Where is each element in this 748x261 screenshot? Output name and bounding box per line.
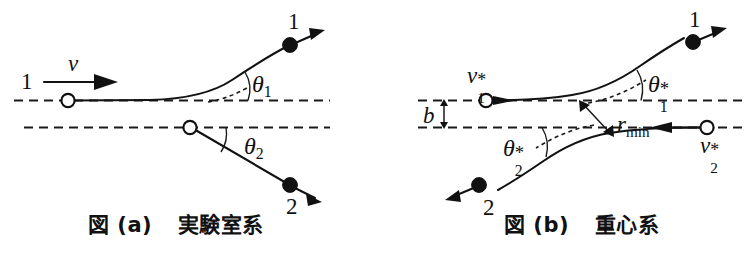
panel-b-velocity-2-superscript: * [710, 142, 719, 160]
panel-b-velocity-2-label: v*2 [700, 134, 724, 157]
panel-a-angle-1-label: θ1 [252, 72, 272, 100]
panel-a-angle-2-subscript: 2 [256, 145, 264, 162]
panel-a-outgoing-particle-1-label: 1 [288, 10, 300, 33]
panel-b-rmin-label: rmin [617, 113, 650, 139]
panel-a-angle-2-symbol: θ [244, 133, 256, 159]
panel-a-particle-1-arrow-head [309, 28, 325, 40]
panel-a-caption: 図 (a) 実験室系 [88, 215, 264, 236]
panel-a-velocity-label: v [68, 52, 78, 75]
panel-a-angle-1-subscript: 1 [264, 83, 272, 100]
panel-a-particle-2-arrow-head [306, 194, 322, 206]
panel-b-graphics [418, 26, 742, 202]
panel-b-outgoing-particle-2-label: 2 [483, 196, 495, 219]
panel-b-velocity-1-label: v*1 [467, 64, 491, 87]
panel-b-particle-1-dot [686, 35, 701, 50]
panel-b-impact-parameter-label: b [423, 104, 435, 127]
panel-b-angle-1-subscript: 1 [660, 99, 668, 115]
panel-a-open-circle-incoming [61, 94, 74, 107]
panel-a-angle-2-label: θ2 [244, 134, 264, 162]
panel-b-velocity-1-superscript: * [477, 72, 486, 90]
panel-b-particle-2-dot [472, 178, 487, 193]
panel-b-angle-1-superscript: * [660, 80, 669, 99]
panel-b-angle-1-symbol: θ [648, 71, 660, 97]
panel-b-caption: 図 (b) 重心系 [504, 215, 659, 236]
panel-b-trajectory-1-direction-arrow [493, 96, 515, 105]
panel-a-outgoing-particle-2-label: 2 [286, 195, 298, 218]
panel-b-caption-label: 図 (b) [504, 213, 569, 237]
panel-a-angle-1-symbol: θ [252, 71, 264, 97]
panel-a-incoming-particle-label: 1 [21, 70, 33, 93]
panel-a-caption-label: 図 (a) [88, 213, 152, 237]
panel-a-particle-2-dot [283, 178, 298, 193]
panel-a-open-circle-target [183, 121, 196, 134]
panel-b-particle-2-arrow-head [445, 190, 461, 202]
panel-b-angle-2-label: θ*2 [503, 136, 528, 160]
panel-a-graphics [14, 28, 330, 206]
panel-b-angle-2-superscript: * [515, 144, 524, 163]
panel-b-outgoing-particle-1-label: 1 [689, 8, 701, 31]
panel-a-velocity-arrow-head [94, 74, 118, 90]
panel-a-particle-1-dot [283, 38, 298, 53]
panel-b-velocity-2-subscript: 2 [710, 160, 718, 175]
panel-b-caption-text: 重心系 [595, 213, 660, 237]
panel-b-rmin-shaft [583, 104, 610, 133]
panel-b-particle-1-arrow-head [711, 26, 727, 38]
panel-a-caption-text: 実験室系 [178, 213, 264, 237]
panel-b-trajectory-2-direction-arrow [650, 122, 672, 133]
panel-b-velocity-2-symbol: v [700, 133, 710, 158]
scattering-figure: 1 v θ1 θ2 1 2 図 (a) 実験室系 v*1 v*2 b rmin … [0, 0, 748, 261]
panel-b-trajectory-2 [498, 128, 700, 191]
panel-b-angle-2-symbol: θ [503, 135, 515, 161]
panel-b-velocity-1-symbol: v [467, 63, 477, 88]
panel-b-angle-2-subscript: 2 [515, 163, 523, 179]
panel-b-rmin-symbol: r [617, 112, 626, 137]
panel-b-rmin-subscript: min [626, 123, 650, 140]
panel-b-angle-1-label: θ*1 [648, 72, 673, 96]
panel-a-trajectory-2 [192, 128, 288, 184]
panel-a-angle-1-arc [245, 72, 250, 101]
panel-b-velocity-1-subscript: 1 [477, 90, 485, 105]
